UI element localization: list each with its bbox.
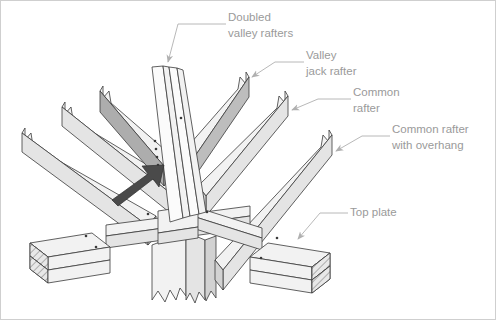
- member-top-plate-left: [30, 233, 110, 283]
- label-doubled-valley-rafters-line2: valley rafters: [228, 27, 293, 39]
- roof-framing-diagram: Doubled valley rafters Valley jack rafte…: [0, 0, 496, 320]
- label-common-rafter-line1: Common: [353, 86, 400, 98]
- label-common-rafter-with-overhang: Common rafter with overhang: [336, 123, 469, 151]
- member-top-plate-right: [250, 243, 330, 293]
- label-valley-jack-rafter: Valley jack rafter: [252, 49, 357, 77]
- label-valley-jack-rafter-line1: Valley: [306, 49, 337, 61]
- label-common-rafter-with-overhang-line2: with overhang: [391, 139, 464, 151]
- label-top-plate: Top plate: [298, 206, 397, 239]
- label-top-plate-line1: Top plate: [350, 206, 397, 218]
- label-common-rafter-line2: rafter: [353, 102, 380, 114]
- label-doubled-valley-rafters-line1: Doubled: [228, 11, 271, 23]
- label-common-rafter-with-overhang-line1: Common rafter: [392, 123, 469, 135]
- framing-assembly: [22, 66, 332, 303]
- label-common-rafter: Common rafter: [292, 86, 400, 114]
- label-valley-jack-rafter-line2: jack rafter: [305, 65, 357, 77]
- label-doubled-valley-rafters: Doubled valley rafters: [168, 11, 293, 62]
